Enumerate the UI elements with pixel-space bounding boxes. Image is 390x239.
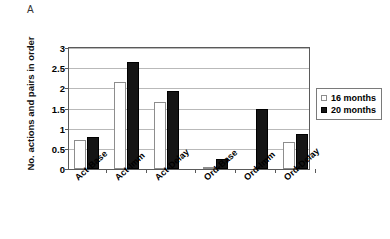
y-tick-label: 1.5 bbox=[52, 103, 65, 114]
y-tick-mark bbox=[65, 169, 69, 170]
x-tick-mark bbox=[275, 169, 276, 173]
legend-item-1: 20 months bbox=[321, 104, 376, 116]
y-axis-title: No. actions and pairs in order bbox=[25, 19, 36, 189]
legend-item-0: 16 months bbox=[321, 92, 376, 104]
legend-swatch-filled-square-icon bbox=[321, 107, 327, 113]
x-tick-mark bbox=[106, 169, 107, 173]
figure-panel-a: A No. actions and pairs in order 00.511.… bbox=[0, 0, 390, 239]
panel-letter: A bbox=[27, 4, 34, 15]
y-tick-label: 2.5 bbox=[52, 63, 65, 74]
legend-label-0: 16 months bbox=[331, 92, 376, 104]
y-tick-label: 0.5 bbox=[52, 143, 65, 154]
x-tick-mark bbox=[195, 169, 196, 173]
legend-label-1: 20 months bbox=[331, 104, 376, 116]
chart-legend: 16 months 20 months bbox=[316, 88, 382, 120]
x-tick-mark bbox=[146, 169, 147, 173]
x-tick-mark bbox=[315, 169, 316, 173]
legend-swatch-open-square-icon bbox=[321, 95, 327, 101]
x-tick-mark bbox=[235, 169, 236, 173]
